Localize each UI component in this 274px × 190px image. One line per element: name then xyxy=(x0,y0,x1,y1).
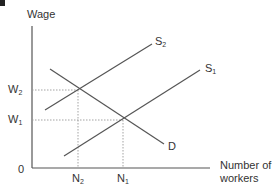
origin-label: 0 xyxy=(18,164,24,175)
x-tick-N1: N1 xyxy=(117,173,129,185)
curve-S1 xyxy=(64,70,200,156)
curve-label-S2: S2 xyxy=(155,36,166,48)
guide-lines xyxy=(32,90,123,168)
y-tick-W2: W2 xyxy=(8,84,22,96)
curve-label-D: D xyxy=(168,141,176,152)
x-axis-label: Number ofworkers xyxy=(220,159,271,185)
y-axis-label: Wage xyxy=(27,9,55,20)
curve-D xyxy=(50,69,164,144)
x-tick-N2: N2 xyxy=(72,173,84,185)
curve-label-S1: S1 xyxy=(205,63,216,75)
curve-S2 xyxy=(45,44,152,110)
curves xyxy=(45,44,200,156)
y-tick-W1: W1 xyxy=(8,114,22,126)
